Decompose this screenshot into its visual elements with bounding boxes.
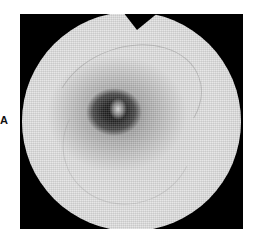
panel-label: A — [0, 114, 8, 126]
orientation-notch — [123, 14, 159, 30]
fundus-image — [22, 14, 241, 229]
fundus-photo-frame — [20, 14, 243, 229]
